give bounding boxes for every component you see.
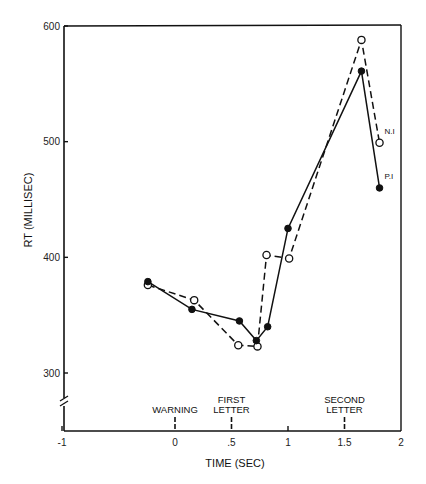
filled-circle-marker (376, 185, 383, 192)
event-label: LETTER (326, 404, 363, 415)
x-tick-label: 0 (172, 437, 178, 448)
rt-time-chart: 300400500600 -10.511.52 WARNINGFIRSTLETT… (0, 0, 426, 484)
x-tick-label: 1 (285, 437, 291, 448)
top-border (64, 25, 401, 26)
open-circle-marker (235, 342, 242, 349)
x-tick-label: .5 (227, 437, 236, 448)
filled-circle-marker (358, 68, 365, 75)
axis-break-mark (60, 401, 68, 406)
x-axis-label: TIME (SEC) (205, 457, 264, 469)
y-tick-label: 500 (43, 136, 60, 147)
open-circle-marker (358, 36, 365, 43)
y-tick-label: 600 (43, 21, 60, 32)
y-tick-label: 300 (43, 368, 60, 379)
x-tick-label: -1 (58, 437, 67, 448)
filled-circle-marker (285, 225, 292, 232)
filled-circle-marker (189, 306, 196, 313)
series-pi: P.I (145, 68, 394, 344)
series-end-label: P.I (385, 172, 394, 181)
x-axis-ticks: -10.511.52 (58, 426, 405, 448)
event-label: LETTER (213, 404, 250, 415)
data-series: N.IP.I (144, 36, 394, 350)
filled-circle-marker (264, 323, 271, 330)
series-end-label: N.I (385, 127, 395, 136)
open-circle-marker (191, 297, 198, 304)
open-circle-marker (263, 251, 270, 258)
series-line (148, 40, 380, 347)
open-circle-marker (376, 139, 383, 146)
plot-frame (60, 25, 401, 431)
x-tick-label: 1.5 (338, 437, 352, 448)
x-tick-label: 2 (398, 437, 404, 448)
filled-circle-marker (236, 318, 243, 325)
filled-circle-marker (253, 337, 260, 344)
event-label: WARNING (152, 404, 198, 415)
open-circle-marker (286, 255, 293, 262)
y-tick-label: 400 (43, 252, 60, 263)
series-line (148, 71, 380, 341)
y-axis-label: RT (MILLISEC) (22, 173, 34, 248)
filled-circle-marker (145, 278, 152, 285)
event-annotations: WARNINGFIRSTLETTERSECONDLETTER (152, 394, 365, 431)
